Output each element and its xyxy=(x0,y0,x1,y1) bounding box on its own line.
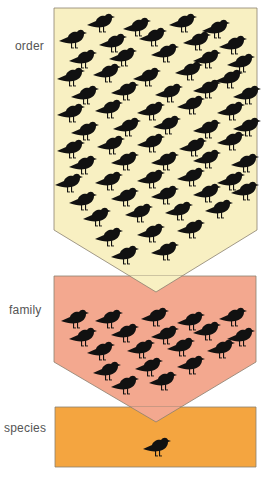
order-shape xyxy=(54,8,257,292)
taxonomy-diagram xyxy=(0,0,261,480)
label-order: order xyxy=(15,39,44,53)
label-species: species xyxy=(4,421,46,435)
label-family: family xyxy=(9,303,42,317)
